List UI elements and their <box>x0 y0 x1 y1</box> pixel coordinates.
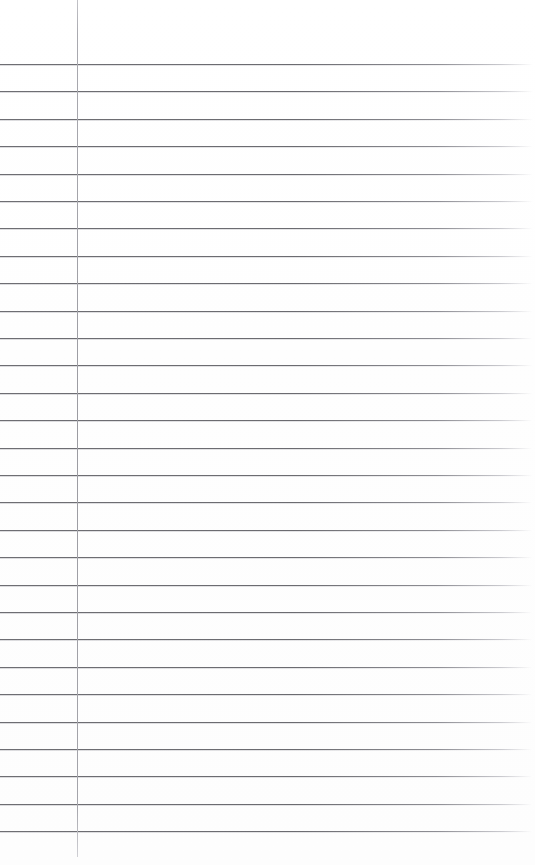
notebook-page <box>0 0 535 865</box>
writing-area[interactable] <box>78 0 535 865</box>
